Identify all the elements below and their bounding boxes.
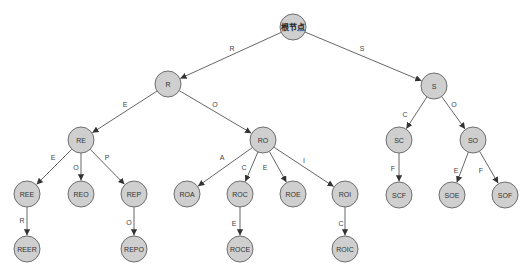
edge-RO-ROI: I — [274, 147, 334, 186]
node-roic: ROIC — [332, 236, 358, 262]
edge-label: E — [123, 101, 128, 108]
edge-label: E — [454, 167, 459, 174]
node-reo: REO — [68, 181, 94, 207]
edge-ROC-ROCE: E — [232, 207, 240, 236]
edge-label: C — [241, 164, 246, 171]
node-so: SO — [460, 127, 486, 153]
edge-R-RE: E — [92, 91, 157, 133]
node-label: REER — [17, 246, 36, 253]
edge-label: E — [232, 220, 237, 227]
edge-label: A — [220, 154, 225, 161]
node-label: R — [165, 81, 170, 88]
edge-label: O — [451, 101, 457, 108]
node-label: SO — [468, 137, 479, 144]
edge-SO-SOF: F — [479, 151, 498, 183]
edge-label: O — [212, 101, 218, 108]
edge-root-S: S — [305, 32, 422, 81]
edge-arrow — [245, 152, 258, 182]
node-label: REO — [73, 191, 89, 198]
node-label: SC — [394, 137, 404, 144]
node-label: RE — [76, 137, 86, 144]
edge-root-R: R — [180, 32, 281, 78]
edge-arrow — [180, 32, 281, 78]
node-roc: ROC — [227, 181, 253, 207]
edge-RE-REP: P — [90, 149, 124, 184]
node-roi: ROI — [332, 181, 358, 207]
node-label: ROC — [232, 191, 248, 198]
edge-arrow — [457, 152, 469, 182]
edge-arrow — [92, 91, 157, 133]
edge-label: O — [126, 219, 132, 226]
edge-REP-REPO: O — [126, 207, 134, 236]
edge-R-RO: O — [179, 91, 251, 134]
edge-S-SO: O — [442, 97, 465, 130]
edge-label: C — [338, 220, 343, 227]
node-label: ROE — [285, 191, 301, 198]
node-label: 根节点 — [281, 22, 305, 32]
node-repo: REPO — [121, 236, 147, 262]
node-label: ROCE — [230, 246, 251, 253]
node-roe: ROE — [280, 181, 306, 207]
edge-label: S — [360, 45, 365, 52]
edge-arrow — [269, 151, 286, 182]
node-r: R — [155, 71, 181, 97]
node-soe: SOE — [439, 182, 465, 208]
edge-RO-ROC: C — [241, 152, 257, 182]
edge-SO-SOE: E — [454, 152, 469, 182]
node-reer: REER — [14, 236, 40, 262]
edge-label: I — [303, 157, 305, 164]
node-rep: REP — [121, 181, 147, 207]
node-ree: REE — [14, 181, 40, 207]
node-label: REPO — [124, 246, 144, 253]
edge-RO-ROE: E — [263, 151, 287, 182]
edge-ROI-ROIC: C — [338, 207, 345, 236]
edge-S-SC: C — [402, 97, 426, 129]
node-sof: SOF — [492, 182, 518, 208]
edge-RE-REO: O — [73, 153, 81, 181]
node-root: 根节点 — [280, 14, 306, 40]
edge-arrow — [406, 97, 427, 129]
edge-label: O — [73, 164, 79, 171]
edge-label: P — [105, 154, 110, 161]
node-s: S — [421, 73, 447, 99]
node-label: SOF — [498, 192, 512, 199]
node-label: SCF — [392, 192, 406, 199]
node-label: REE — [20, 191, 35, 198]
node-label: ROA — [179, 191, 195, 198]
edge-label: F — [391, 165, 395, 172]
edge-label: R — [19, 217, 24, 224]
node-label: SOE — [445, 192, 460, 199]
edge-arrow — [179, 91, 251, 134]
edge-SC-SCF: F — [391, 153, 399, 182]
node-roce: ROCE — [227, 236, 253, 262]
edge-RE-REE: E — [37, 149, 72, 184]
edge-label: F — [479, 167, 483, 174]
trie-diagram: RSEOCOEOPACEIFEFROEC 根节点RSREROSCSOREEREO… — [0, 0, 528, 276]
edge-arrow — [274, 147, 334, 186]
edge-label: E — [263, 164, 268, 171]
edge-label: C — [402, 111, 407, 118]
edge-label: E — [51, 154, 56, 161]
node-ro: RO — [250, 127, 276, 153]
edge-REE-REER: R — [19, 207, 27, 236]
node-scf: SCF — [386, 182, 412, 208]
node-roa: ROA — [174, 181, 200, 207]
node-label: RO — [258, 137, 269, 144]
edge-label: R — [229, 45, 234, 52]
node-label: ROI — [339, 191, 352, 198]
node-label: ROIC — [336, 246, 354, 253]
edge-arrow — [305, 32, 422, 81]
nodes-layer: 根节点RSREROSCSOREEREOREPROAROCROEROISCFSOE… — [14, 14, 518, 262]
node-label: REP — [127, 191, 142, 198]
node-label: S — [432, 83, 437, 90]
node-sc: SC — [386, 127, 412, 153]
node-re: RE — [68, 127, 94, 153]
